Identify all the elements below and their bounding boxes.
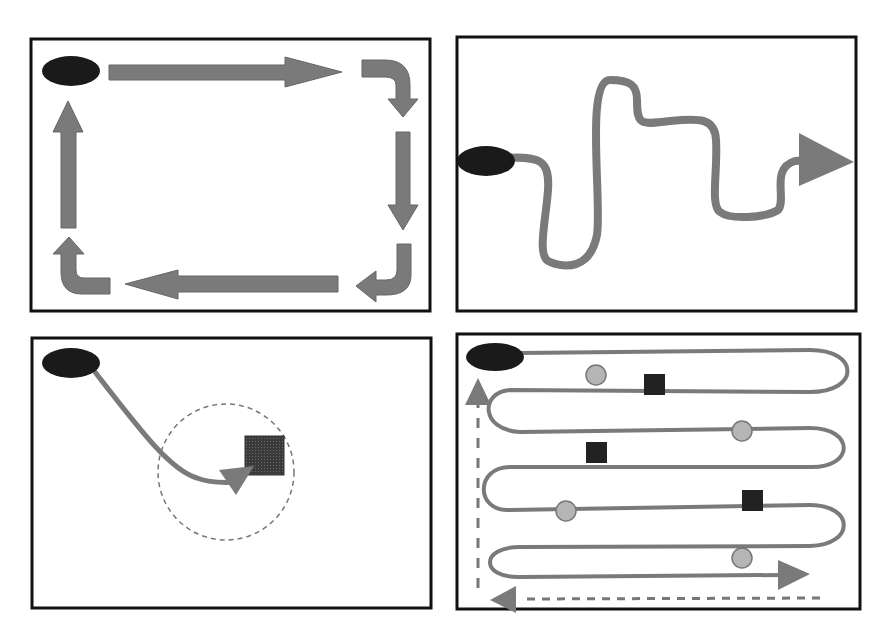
- square-marker: [586, 442, 607, 463]
- square-marker: [742, 490, 763, 511]
- start-oval: [466, 343, 524, 371]
- start-oval: [42, 56, 100, 86]
- start-oval: [457, 146, 515, 176]
- panel-border: [457, 37, 856, 311]
- panel-targeted: [32, 338, 431, 608]
- circle-marker: [556, 501, 576, 521]
- circle-marker: [732, 421, 752, 441]
- panel-random: [457, 37, 856, 311]
- circle-marker: [732, 548, 752, 568]
- panel-perimeter: [31, 39, 430, 311]
- panel-serpentine: [457, 334, 860, 613]
- circle-marker: [586, 365, 606, 385]
- square-marker: [644, 374, 665, 395]
- start-oval: [42, 348, 100, 378]
- figure: [0, 0, 894, 640]
